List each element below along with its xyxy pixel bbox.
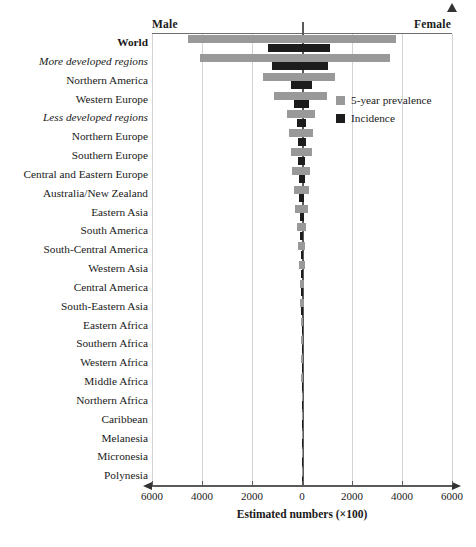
bar-incidence [301, 307, 303, 315]
legend-label: Incidence [351, 112, 395, 124]
bar-incidence [302, 345, 304, 353]
category-label: Northern America [0, 71, 152, 90]
x-axis-title: Estimated numbers (×100) [152, 508, 452, 520]
bar-row [152, 298, 452, 317]
legend-item: Incidence [336, 110, 432, 126]
legend-swatch [336, 96, 345, 105]
bar-row [152, 241, 452, 260]
category-label: Polynesia [0, 466, 152, 485]
category-label: Southern Africa [0, 334, 152, 353]
female-side-label: Female [414, 18, 451, 30]
x-axis-tick [402, 481, 403, 485]
category-label: South-Central America [0, 240, 152, 259]
bar-prevalence [302, 393, 304, 401]
bar-incidence [301, 251, 303, 259]
x-axis-tick-label: 6000 [441, 490, 463, 502]
category-label: Central and Eastern Europe [0, 165, 152, 184]
x-axis-tick [452, 481, 453, 485]
bar-prevalence [300, 280, 304, 288]
bar-incidence [301, 288, 303, 296]
bar-incidence [294, 100, 309, 108]
category-label: South America [0, 221, 152, 240]
bar-incidence [302, 420, 304, 428]
chart-legend: 5-year prevalenceIncidence [336, 92, 432, 128]
legend-label: 5-year prevalence [351, 94, 432, 106]
category-label: Middle Africa [0, 372, 152, 391]
bar-row [152, 392, 452, 411]
bar-incidence [302, 326, 304, 334]
category-label: Western Europe [0, 90, 152, 109]
bar-incidence [302, 439, 304, 447]
bar-prevalence [302, 449, 304, 457]
gridline [452, 34, 453, 486]
population-pyramid-chart: Male Female WorldMore developed regionsN… [0, 0, 476, 547]
bar-incidence [302, 458, 304, 466]
x-axis-tick [202, 481, 203, 485]
category-label: Southern Europe [0, 146, 152, 165]
bar-row [152, 166, 452, 185]
x-axis-tick-label: 6000 [141, 490, 163, 502]
bar-row [152, 204, 452, 223]
bar-incidence [272, 62, 328, 70]
bar-incidence [299, 175, 305, 183]
category-label: World [0, 33, 152, 52]
male-side-label: Male [152, 18, 178, 30]
bar-prevalence [263, 73, 335, 81]
bar-incidence [299, 194, 304, 202]
bar-prevalence [287, 110, 316, 118]
bar-prevalence [297, 223, 306, 231]
category-label: Australia/New Zealand [0, 184, 152, 203]
x-axis-tick [352, 481, 353, 485]
x-axis: 6000400020000200040006000 [152, 485, 452, 487]
bar-prevalence [298, 242, 305, 250]
bar-prevalence [294, 186, 310, 194]
x-axis-tick [152, 481, 153, 485]
bar-row [152, 335, 452, 354]
bar-row [152, 72, 452, 91]
bar-row [152, 411, 452, 430]
bar-row [152, 448, 452, 467]
bar-row [152, 34, 452, 53]
x-axis-tick-label: 4000 [191, 490, 213, 502]
bar-row [152, 53, 452, 72]
bar-incidence [298, 157, 305, 165]
bar-incidence [300, 232, 303, 240]
bar-prevalence [302, 468, 304, 476]
category-label: More developed regions [0, 52, 152, 71]
bar-row [152, 147, 452, 166]
bar-prevalence [301, 318, 304, 326]
bar-row [152, 354, 452, 373]
bar-prevalence [291, 148, 312, 156]
bar-row [152, 260, 452, 279]
bar-row [152, 317, 452, 336]
bar-prevalence [289, 129, 313, 137]
bar-prevalence [301, 355, 303, 363]
bar-prevalence [295, 205, 308, 213]
bar-incidence [302, 401, 304, 409]
bar-row [152, 128, 452, 147]
category-label: Western Africa [0, 353, 152, 372]
bar-row [152, 373, 452, 392]
bar-incidence [302, 364, 304, 372]
axis-arrow-up-icon [447, 3, 457, 12]
bar-row [152, 222, 452, 241]
bar-prevalence [200, 54, 390, 62]
category-label: Melanesia [0, 429, 152, 448]
bar-prevalence [302, 431, 304, 439]
x-axis-tick-label: 4000 [391, 490, 413, 502]
x-axis-tick-label: 0 [299, 490, 305, 502]
legend-swatch [336, 114, 345, 123]
axis-side-headers: Male Female [0, 18, 476, 34]
x-axis-tick-label: 2000 [241, 490, 263, 502]
category-label: Caribbean [0, 410, 152, 429]
bar-incidence [291, 81, 312, 89]
bar-incidence [301, 270, 303, 278]
x-axis-tick-label: 2000 [341, 490, 363, 502]
bar-row [152, 430, 452, 449]
bar-incidence [302, 383, 304, 391]
x-axis-tick [302, 481, 303, 485]
category-label: Central America [0, 278, 152, 297]
category-label: Micronesia [0, 447, 152, 466]
bar-prevalence [300, 299, 303, 307]
bar-prevalence [299, 261, 305, 269]
